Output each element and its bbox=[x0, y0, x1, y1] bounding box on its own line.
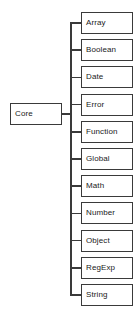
branch-connector-string bbox=[70, 294, 81, 296]
tree-node-object-label: Object bbox=[86, 237, 110, 245]
tree-node-date-label: Date bbox=[86, 73, 103, 81]
branch-connector-boolean bbox=[70, 49, 81, 51]
branch-connector-error bbox=[70, 104, 81, 106]
tree-node-core[interactable]: Core bbox=[10, 103, 62, 125]
tree-node-number-label: Number bbox=[86, 209, 115, 217]
branch-connector-function bbox=[70, 131, 81, 133]
tree-node-math[interactable]: Math bbox=[81, 175, 133, 197]
tree-node-core-label: Core bbox=[15, 110, 33, 118]
tree-node-array-label: Array bbox=[86, 19, 106, 27]
tree-node-string[interactable]: String bbox=[81, 284, 133, 306]
tree-node-boolean[interactable]: Boolean bbox=[81, 39, 133, 61]
tree-node-date[interactable]: Date bbox=[81, 66, 133, 88]
branch-connector-object bbox=[70, 240, 81, 242]
branch-connector-regexp bbox=[70, 267, 81, 269]
tree-node-string-label: String bbox=[86, 291, 108, 299]
tree-node-math-label: Math bbox=[86, 182, 104, 190]
tree-node-regexp-label: RegExp bbox=[86, 264, 115, 272]
tree-node-boolean-label: Boolean bbox=[86, 46, 116, 54]
tree-node-function[interactable]: Function bbox=[81, 121, 133, 143]
tree-node-global-label: Global bbox=[86, 155, 110, 163]
core-objects-tree-diagram: Core ArrayBooleanDateErrorFunctionGlobal… bbox=[0, 0, 139, 323]
tree-node-number[interactable]: Number bbox=[81, 202, 133, 224]
tree-node-global[interactable]: Global bbox=[81, 148, 133, 170]
tree-node-error[interactable]: Error bbox=[81, 94, 133, 116]
branch-connector-date bbox=[70, 77, 81, 79]
branch-connector-number bbox=[70, 213, 81, 215]
tree-node-error-label: Error bbox=[86, 101, 104, 109]
branch-connector-math bbox=[70, 185, 81, 187]
tree-node-regexp[interactable]: RegExp bbox=[81, 257, 133, 279]
branch-connector-global bbox=[70, 158, 81, 160]
tree-node-object[interactable]: Object bbox=[81, 230, 133, 252]
tree-node-function-label: Function bbox=[86, 128, 117, 136]
tree-node-array[interactable]: Array bbox=[81, 12, 133, 34]
branch-connector-array bbox=[70, 22, 81, 24]
